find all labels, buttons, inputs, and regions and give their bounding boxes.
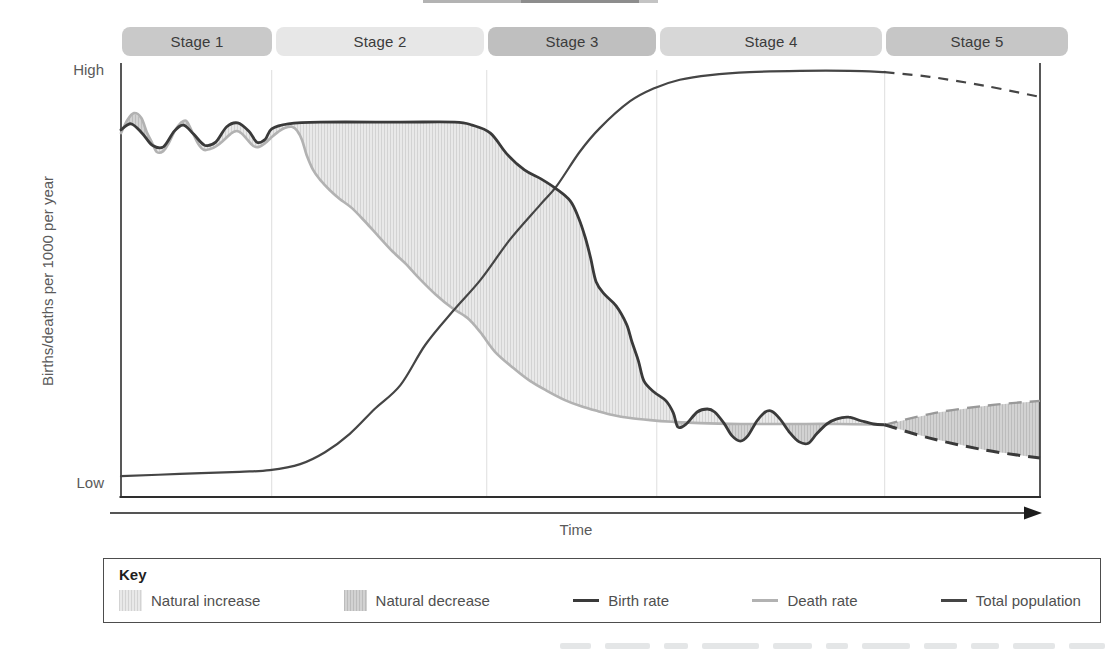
death-rate-line-swatch: [752, 599, 778, 602]
legend-item-natural-increase: Natural increase: [119, 590, 260, 611]
cropped-caption-fragment: [560, 643, 1105, 650]
legend-item-total-population: Total population: [941, 592, 1081, 609]
legend-title: Key: [119, 566, 1085, 583]
legend-label: Total population: [976, 592, 1081, 609]
legend-item-birth-rate: Birth rate: [573, 592, 669, 609]
dtm-chart: [0, 0, 1105, 652]
natural-increase-region: [195, 122, 675, 422]
projected-natural-decrease-region: [885, 401, 1040, 458]
x-axis-title: Time: [526, 521, 626, 538]
natural-decrease-swatch: [344, 590, 367, 611]
birth-rate-line-swatch: [573, 599, 599, 602]
total-population-line-swatch: [941, 599, 967, 602]
legend-row: Natural increase Natural decrease Birth …: [119, 590, 1085, 611]
total-population-projected-curve: [885, 72, 1040, 97]
legend-label: Birth rate: [608, 592, 669, 609]
legend-label: Natural increase: [151, 592, 260, 609]
legend-item-death-rate: Death rate: [752, 592, 857, 609]
legend-label: Death rate: [787, 592, 857, 609]
legend-item-natural-decrease: Natural decrease: [344, 590, 490, 611]
legend-box: Key Natural increase Natural decrease Bi…: [103, 558, 1101, 623]
time-arrow-head: [1024, 507, 1042, 520]
legend-label: Natural decrease: [376, 592, 490, 609]
demographic-transition-figure: Stage 1 Stage 2 Stage 3 Stage 4 Stage 5 …: [0, 0, 1105, 652]
natural-increase-swatch: [119, 590, 142, 611]
